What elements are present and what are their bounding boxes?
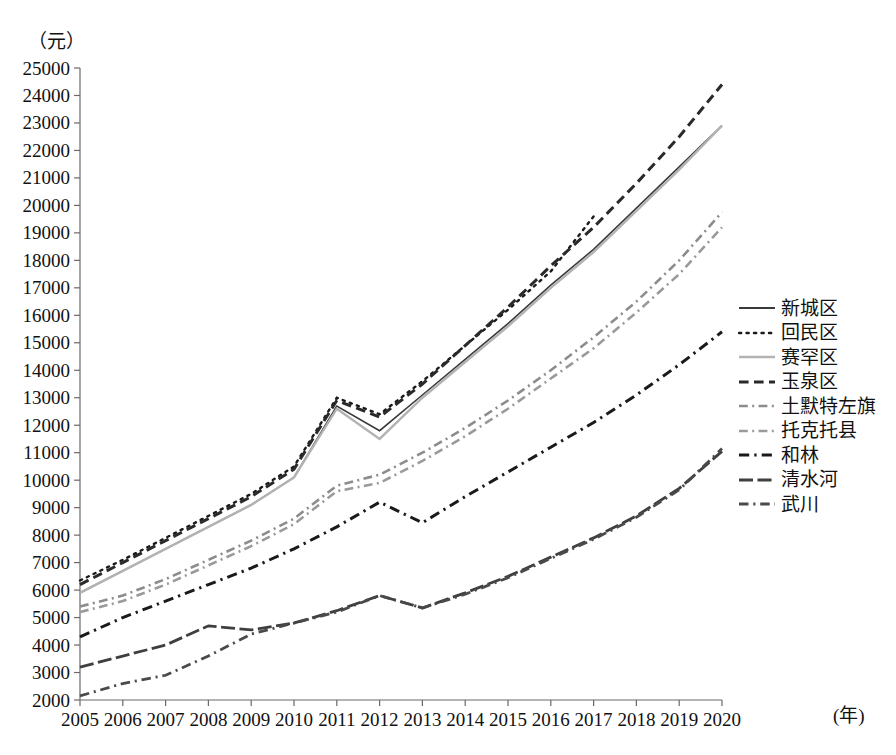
svg-text:2018: 2018 xyxy=(617,709,655,730)
svg-text:4000: 4000 xyxy=(32,635,70,656)
legend-swatch-icon xyxy=(738,326,776,340)
legend-swatch-icon xyxy=(738,375,776,389)
svg-text:19000: 19000 xyxy=(23,222,71,243)
svg-text:22000: 22000 xyxy=(23,140,71,161)
series-line-4 xyxy=(80,212,722,606)
legend-item-label: 武川 xyxy=(781,495,819,514)
data-series-group xyxy=(80,84,722,695)
svg-text:2005: 2005 xyxy=(61,709,99,730)
legend-swatch-icon xyxy=(738,448,776,462)
svg-text:2012: 2012 xyxy=(361,709,399,730)
svg-text:25000: 25000 xyxy=(23,58,71,79)
svg-text:2011: 2011 xyxy=(318,709,355,730)
legend-swatch-icon xyxy=(738,399,776,413)
svg-text:14000: 14000 xyxy=(23,360,71,381)
legend-item-label: 和林 xyxy=(781,446,819,465)
legend-item[interactable]: 土默特左旗 xyxy=(738,394,896,419)
svg-text:20000: 20000 xyxy=(23,195,71,216)
legend-swatch-icon xyxy=(738,473,776,487)
legend-item-label: 新城区 xyxy=(781,299,838,318)
svg-text:3000: 3000 xyxy=(32,662,70,683)
svg-text:10000: 10000 xyxy=(23,470,71,491)
series-line-3 xyxy=(80,84,722,584)
series-line-7 xyxy=(80,451,722,667)
series-line-6 xyxy=(80,332,722,637)
legend-item-label: 回民区 xyxy=(781,323,838,342)
legend-item[interactable]: 武川 xyxy=(738,492,896,517)
legend-item[interactable]: 和林 xyxy=(738,443,896,468)
svg-text:2010: 2010 xyxy=(275,709,313,730)
svg-text:21000: 21000 xyxy=(23,167,71,188)
legend-item-label: 玉泉区 xyxy=(781,372,838,391)
line-chart: （元） 200030004000500060007000800090001000… xyxy=(0,0,896,755)
chart-legend: 新城区回民区赛罕区玉泉区土默特左旗托克托县和林清水河武川 xyxy=(738,296,896,517)
svg-text:6000: 6000 xyxy=(32,580,70,601)
svg-text:2019: 2019 xyxy=(660,709,698,730)
legend-swatch-icon xyxy=(738,424,776,438)
svg-text:15000: 15000 xyxy=(23,332,71,353)
svg-text:11000: 11000 xyxy=(23,442,70,463)
svg-text:2008: 2008 xyxy=(189,709,227,730)
y-axis-ticks: 2000300040005000600070008000900010000110… xyxy=(23,58,81,711)
series-line-8 xyxy=(80,449,722,696)
svg-text:18000: 18000 xyxy=(23,250,71,271)
svg-text:2007: 2007 xyxy=(147,709,185,730)
legend-item[interactable]: 清水河 xyxy=(738,468,896,493)
svg-text:2015: 2015 xyxy=(489,709,527,730)
svg-text:2017: 2017 xyxy=(575,709,613,730)
legend-swatch-icon xyxy=(738,350,776,364)
svg-text:23000: 23000 xyxy=(23,112,71,133)
legend-item-label: 清水河 xyxy=(781,470,838,489)
legend-item-label: 赛罕区 xyxy=(781,348,838,367)
legend-item-label: 土默特左旗 xyxy=(781,397,876,416)
svg-text:8000: 8000 xyxy=(32,525,70,546)
legend-item[interactable]: 回民区 xyxy=(738,321,896,346)
axis-lines xyxy=(80,68,722,700)
svg-text:13000: 13000 xyxy=(23,387,71,408)
svg-text:2014: 2014 xyxy=(446,709,485,730)
x-axis-unit-label: (年) xyxy=(833,700,865,727)
svg-text:9000: 9000 xyxy=(32,497,70,518)
x-axis-ticks: 2005200620072008200920102011201220132014… xyxy=(61,700,741,730)
svg-text:7000: 7000 xyxy=(32,552,70,573)
legend-swatch-icon xyxy=(738,301,776,315)
svg-text:17000: 17000 xyxy=(23,277,71,298)
svg-text:12000: 12000 xyxy=(23,415,71,436)
legend-swatch-icon xyxy=(738,497,776,511)
legend-item[interactable]: 玉泉区 xyxy=(738,370,896,395)
legend-item-label: 托克托县 xyxy=(781,421,857,440)
svg-text:5000: 5000 xyxy=(32,607,70,628)
legend-item[interactable]: 新城区 xyxy=(738,296,896,321)
svg-text:2020: 2020 xyxy=(703,709,741,730)
svg-text:2000: 2000 xyxy=(32,690,70,711)
svg-text:2013: 2013 xyxy=(403,709,441,730)
legend-item[interactable]: 赛罕区 xyxy=(738,345,896,370)
svg-text:2016: 2016 xyxy=(532,709,570,730)
svg-text:2009: 2009 xyxy=(232,709,270,730)
svg-text:16000: 16000 xyxy=(23,305,71,326)
svg-text:2006: 2006 xyxy=(104,709,142,730)
legend-item[interactable]: 托克托县 xyxy=(738,419,896,444)
svg-text:24000: 24000 xyxy=(23,85,71,106)
